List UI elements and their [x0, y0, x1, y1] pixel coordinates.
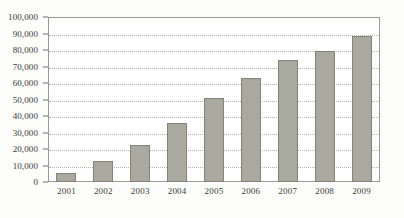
y-tick-label: 20,000	[13, 145, 38, 154]
x-tick-label: 2009	[352, 186, 371, 197]
y-tick-label: 90,000	[13, 29, 38, 38]
y-tick-label: 30,000	[13, 128, 38, 137]
x-tick-label: 2007	[278, 186, 297, 197]
x-tick-label: 2005	[205, 186, 224, 197]
bar-2004	[167, 123, 187, 182]
y-tick-label: 80,000	[13, 46, 38, 55]
x-tick-label: 2006	[241, 186, 260, 197]
y-tick-label: 60,000	[13, 79, 38, 88]
x-tick-label: 2002	[94, 186, 113, 197]
bar-2009	[352, 36, 372, 182]
bar-2005	[204, 98, 224, 182]
y-tick-label: 70,000	[13, 62, 38, 71]
x-tick-label: 2008	[315, 186, 334, 197]
bar-2008	[315, 51, 335, 182]
y-tick-label: 10,000	[13, 161, 38, 170]
y-tick-label: 40,000	[13, 112, 38, 121]
bar-2006	[241, 78, 261, 182]
bar-chart: 010,00020,00030,00040,00050,00060,00070,…	[0, 0, 404, 218]
bar-2001	[56, 173, 76, 182]
x-tick-label: 2003	[131, 186, 150, 197]
bar-2002	[93, 161, 113, 182]
bar-series	[48, 17, 380, 182]
y-tick-label: 100,000	[8, 13, 38, 22]
bar-2003	[130, 145, 150, 182]
x-tick-label: 2001	[57, 186, 76, 197]
y-tick-label: 50,000	[13, 95, 38, 104]
y-tick-label: 0	[33, 178, 38, 187]
x-axis: 200120022003200420052006200720082009	[48, 186, 380, 210]
y-axis: 010,00020,00030,00040,00050,00060,00070,…	[0, 0, 48, 218]
x-tick-label: 2004	[168, 186, 187, 197]
bar-2007	[278, 60, 298, 182]
